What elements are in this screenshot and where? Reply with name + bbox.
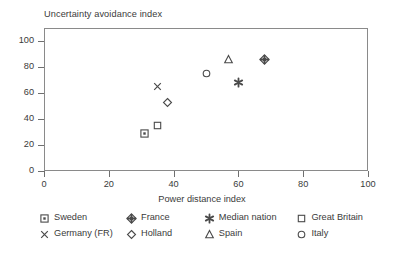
y-axis-tick-label: 80 [0, 62, 34, 71]
x-axis-tick [368, 171, 369, 177]
x-axis-tick-label: 0 [24, 180, 64, 189]
data-point-germany-fr [152, 81, 163, 92]
y-axis-tick-label: 0 [0, 166, 34, 175]
y-axis-tick [38, 119, 44, 120]
legend-item-median-nation[interactable]: Median nation [203, 212, 296, 224]
square-dot-marker [38, 212, 51, 224]
plot-area [44, 28, 368, 171]
x-axis-tick [174, 171, 175, 177]
legend-label: Sweden [54, 213, 87, 222]
legend-item-spain[interactable]: Spain [203, 228, 296, 240]
legend-row: Germany (FR)HollandSpainItaly [38, 226, 388, 242]
legend-label: Italy [311, 229, 328, 238]
legend-label: Great Britain [311, 213, 363, 222]
legend-item-italy[interactable]: Italy [295, 228, 388, 240]
cross-marker [38, 228, 51, 240]
legend-item-great-britain[interactable]: Great Britain [295, 212, 388, 224]
y-axis-tick-label: 20 [0, 140, 34, 149]
data-point-spain [223, 54, 234, 65]
y-axis-tick-label: 100 [0, 36, 34, 45]
legend-label: Germany (FR) [54, 229, 113, 238]
y-axis-tick-label: 40 [0, 114, 34, 123]
data-point-sweden [139, 128, 150, 139]
x-axis-tick [303, 171, 304, 177]
legend-item-sweden[interactable]: Sweden [38, 212, 125, 224]
legend-item-holland[interactable]: Holland [125, 228, 203, 240]
chart-legend: SwedenFranceMedian nationGreat BritainGe… [38, 210, 388, 242]
legend-item-germany-fr[interactable]: Germany (FR) [38, 228, 125, 240]
data-point-france [259, 54, 270, 65]
y-axis-tick [38, 93, 44, 94]
data-point-italy [201, 68, 212, 79]
legend-label: Holland [141, 229, 172, 238]
data-point-median-nation [233, 77, 244, 88]
x-axis-tick-label: 100 [348, 180, 388, 189]
x-axis-tick [44, 171, 45, 177]
y-axis-title: Uncertainty avoidance index [44, 9, 162, 19]
y-axis-tick [38, 145, 44, 146]
legend-label: Spain [219, 229, 243, 238]
data-point-great-britain [152, 120, 163, 131]
circle-marker [295, 228, 308, 240]
x-axis-tick [238, 171, 239, 177]
x-axis-tick [109, 171, 110, 177]
diamond-marker [125, 228, 138, 240]
y-axis-tick-label: 60 [0, 88, 34, 97]
legend-label: France [141, 213, 170, 222]
legend-label: Median nation [219, 213, 277, 222]
x-axis-tick-label: 20 [89, 180, 129, 189]
x-axis-tick-label: 80 [283, 180, 323, 189]
data-point-holland [162, 97, 173, 108]
asterisk-marker [203, 212, 216, 224]
legend-row: SwedenFranceMedian nationGreat Britain [38, 210, 388, 226]
y-axis-tick [38, 67, 44, 68]
x-axis-title: Power distance index [0, 194, 404, 204]
triangle-marker [203, 228, 216, 240]
diamond-cross-marker [125, 212, 138, 224]
x-axis-tick-label: 60 [218, 180, 258, 189]
legend-item-france[interactable]: France [125, 212, 203, 224]
y-axis-tick [38, 41, 44, 42]
x-axis-tick-label: 40 [154, 180, 194, 189]
scatter-chart-figure: Uncertainty avoidance index 020406080100… [0, 0, 404, 253]
square-marker [295, 212, 308, 224]
